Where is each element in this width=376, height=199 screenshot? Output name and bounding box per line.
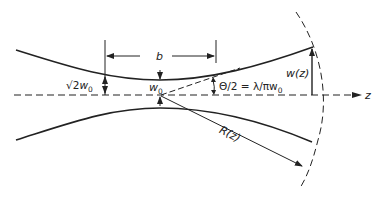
w0-marker: w0 bbox=[149, 70, 163, 106]
b-label: b bbox=[156, 50, 163, 63]
wz-label: w(z) bbox=[286, 67, 309, 80]
w0-label: w0 bbox=[149, 81, 163, 96]
wavefront-curvature-arc bbox=[296, 12, 323, 188]
divergence-angle-label: Θ/2 = λ/πw0 bbox=[219, 80, 283, 95]
radius-of-curvature-marker: R(z) bbox=[161, 96, 302, 166]
wz-marker: w(z) bbox=[286, 49, 312, 95]
z-axis-label: z bbox=[364, 89, 371, 102]
beam-upper-envelope bbox=[16, 47, 313, 80]
sqrt2-label: √2w0 bbox=[66, 79, 93, 94]
beam-lower-envelope bbox=[16, 108, 312, 142]
divergence-angle-marker: Θ/2 = λ/πw0 bbox=[211, 77, 283, 95]
Rz-label: R(z) bbox=[217, 123, 243, 145]
sqrt2-w0-marker: √2w0 bbox=[66, 77, 105, 94]
gaussian-beam-diagram: z b √2w0 w0 Θ/2 = λ/πw0 bbox=[0, 0, 376, 199]
axis-arrow-icon bbox=[352, 92, 362, 98]
